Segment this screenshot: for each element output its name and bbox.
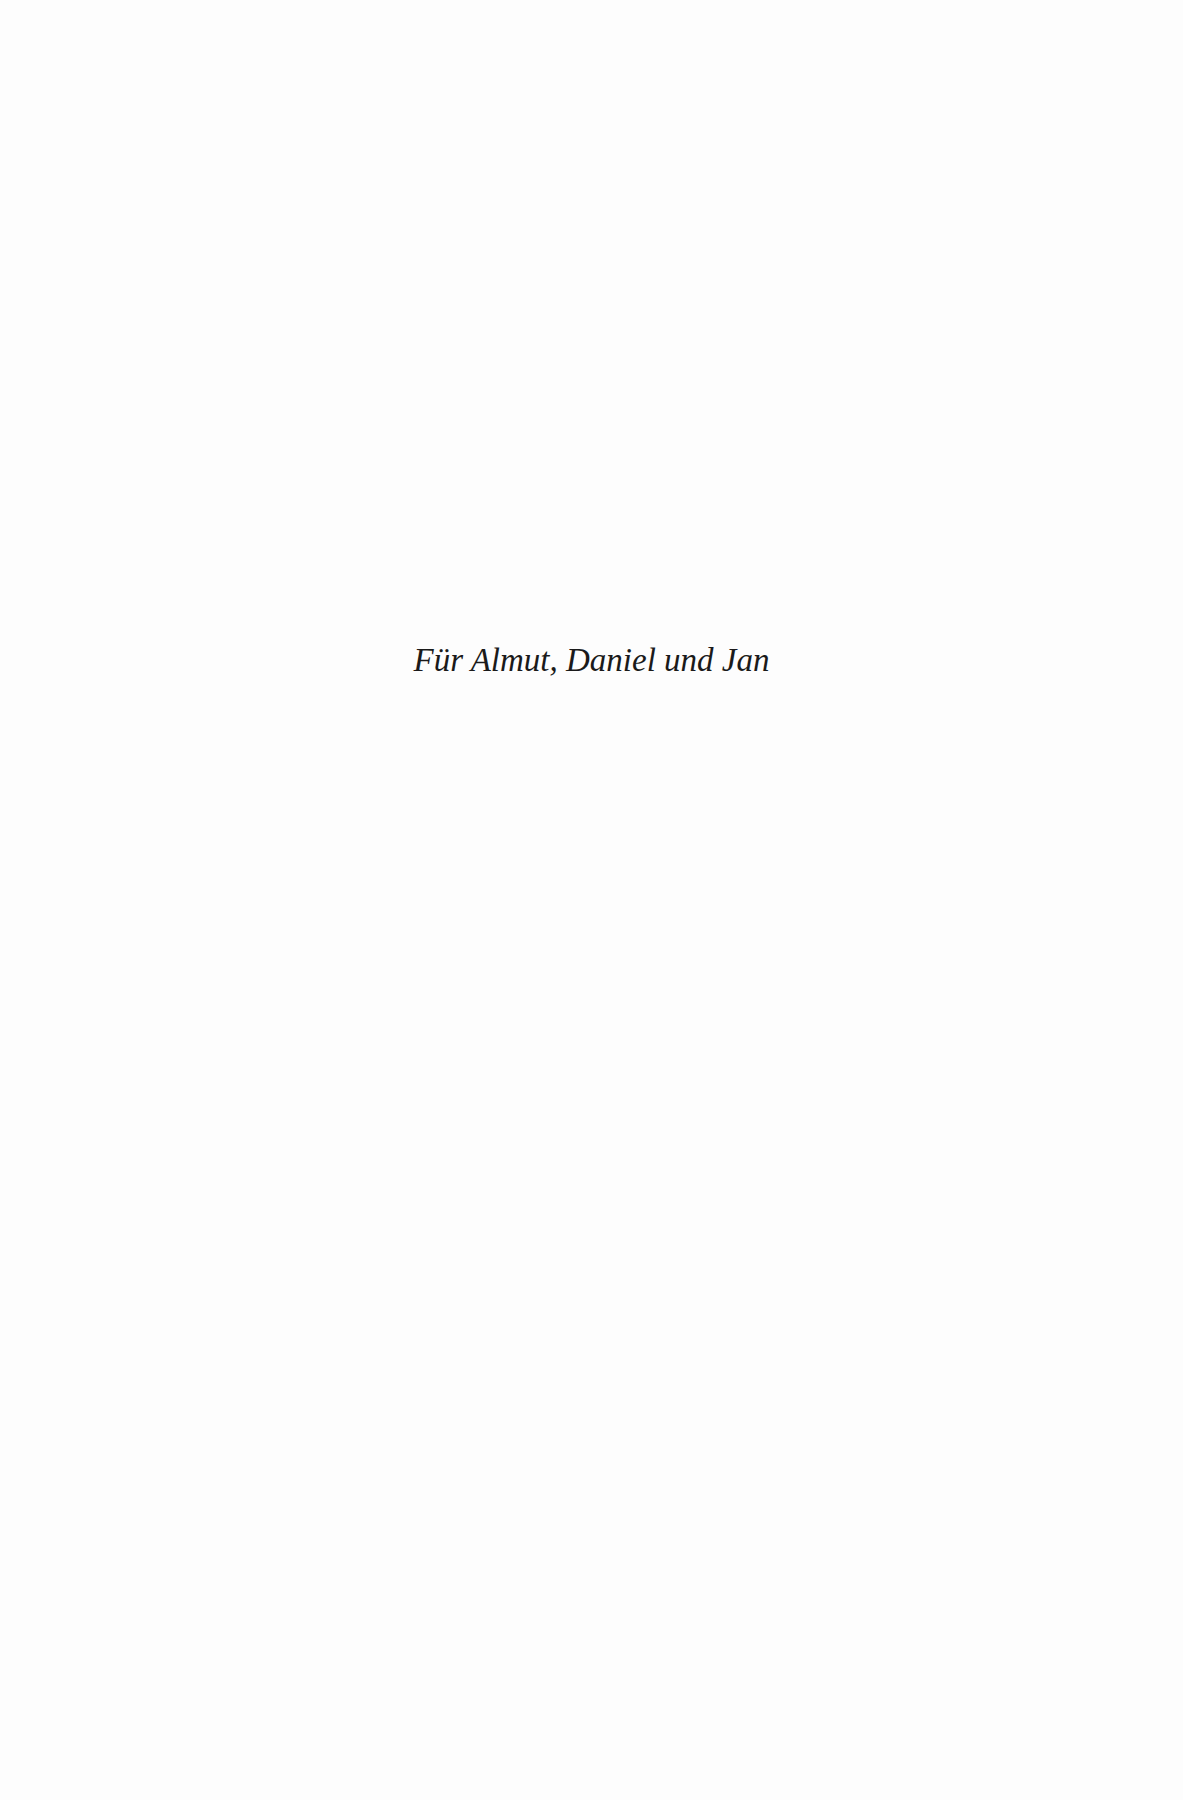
dedication-text: Für Almut, Daniel und Jan xyxy=(414,642,770,678)
book-page: Für Almut, Daniel und Jan xyxy=(0,0,1183,1800)
dedication: Für Almut, Daniel und Jan xyxy=(0,640,1183,680)
